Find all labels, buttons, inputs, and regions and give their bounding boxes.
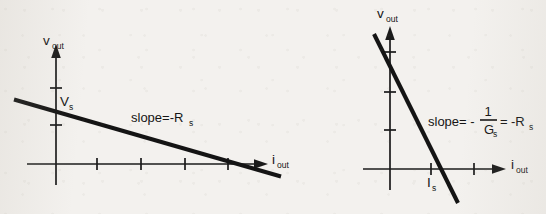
v-intercept-label-sub: s [69, 102, 73, 112]
slope-formula-denominator-sub: s [493, 129, 497, 139]
thevenin-plot: v out i out V s slope=-R s [14, 33, 289, 185]
slope-formula-numerator: 1 [484, 104, 491, 119]
slope-formula-equals: = [500, 114, 508, 129]
slope-formula-result-main: -R [511, 114, 525, 129]
norton-plot: v out i out I s slope= - 1 G s = -R s [363, 6, 533, 203]
y-axis-label-sub: out [52, 41, 64, 51]
x-axis-label-main: i [272, 152, 275, 167]
x-intercept-label-sub: s [432, 183, 436, 193]
x-axis-label-sub: out [516, 165, 528, 175]
figure-root: v out i out V s slope=-R s [0, 0, 546, 214]
y-axis-arrow-icon [385, 26, 395, 40]
y-axis-label-main: v [377, 6, 384, 21]
x-intercept-label-main: I [427, 175, 431, 190]
v-intercept-label-main: V [60, 94, 69, 109]
y-axis-label-sub: out [386, 14, 398, 24]
y-axis-label-main: v [43, 33, 50, 48]
slope-formula-lead: slope= - [428, 114, 475, 129]
x-axis-label-sub: out [277, 160, 289, 170]
slope-formula: slope= - 1 G s = -R s [428, 104, 533, 139]
x-axis-label-main: i [511, 157, 514, 172]
x-axis-arrow-icon [492, 164, 506, 174]
slope-formula-result-sub: s [529, 122, 533, 132]
slope-label-sub: s [189, 118, 193, 128]
iv-characteristic-figure: v out i out V s slope=-R s [0, 0, 546, 214]
slope-label-main: slope=-R [131, 110, 183, 125]
